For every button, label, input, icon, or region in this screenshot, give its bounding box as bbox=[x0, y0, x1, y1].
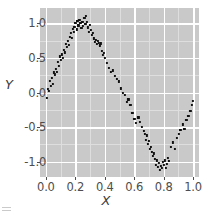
y-axis-tick-label: -0.5 bbox=[24, 120, 46, 134]
data-point bbox=[67, 44, 69, 46]
gridline-vertical bbox=[46, 8, 47, 177]
data-point bbox=[161, 167, 163, 169]
data-point bbox=[80, 27, 82, 29]
y-axis-tick-mark bbox=[37, 58, 40, 59]
data-point bbox=[172, 141, 174, 143]
data-point bbox=[166, 163, 168, 165]
data-point bbox=[159, 169, 161, 171]
gridline-horizontal bbox=[40, 23, 199, 24]
gridline-vertical bbox=[75, 8, 76, 177]
x-axis-title: X bbox=[0, 193, 212, 208]
data-point bbox=[82, 25, 84, 27]
data-point bbox=[77, 24, 79, 26]
plot-panel bbox=[40, 8, 199, 177]
data-point bbox=[129, 104, 131, 106]
data-point bbox=[131, 112, 133, 114]
data-point bbox=[173, 148, 175, 150]
data-point bbox=[181, 123, 183, 125]
data-point bbox=[70, 32, 72, 34]
cropped-glyph-artifact bbox=[2, 207, 11, 212]
data-point bbox=[120, 87, 122, 89]
data-point bbox=[185, 119, 187, 121]
data-point bbox=[61, 53, 63, 55]
data-point bbox=[139, 120, 141, 122]
x-axis-tick-label: 0.2 bbox=[66, 180, 84, 194]
scatter-plot-figure: -1.0-0.50.00.51.00.00.20.40.60.81.0 X Y bbox=[0, 0, 212, 218]
data-point bbox=[112, 69, 114, 71]
x-axis-tick-mark bbox=[164, 177, 165, 180]
x-axis-tick-mark bbox=[134, 177, 135, 180]
x-axis-tick-mark bbox=[75, 177, 76, 180]
data-point bbox=[78, 19, 80, 21]
y-axis-tick-mark bbox=[37, 23, 40, 24]
x-axis-tick-label: 1.0 bbox=[184, 180, 202, 194]
data-point bbox=[108, 67, 110, 69]
data-point bbox=[165, 167, 167, 169]
y-axis-tick-mark bbox=[37, 162, 40, 163]
data-point bbox=[127, 98, 129, 100]
data-point bbox=[123, 94, 125, 96]
data-point bbox=[56, 71, 58, 73]
y-axis-tick-label: -1.0 bbox=[24, 155, 46, 169]
x-axis-tick-label: 0.8 bbox=[155, 180, 173, 194]
x-axis-tick-mark bbox=[105, 177, 106, 180]
data-point bbox=[146, 134, 148, 136]
y-axis-title: Y bbox=[5, 77, 13, 92]
data-point bbox=[145, 139, 147, 141]
gridline-vertical bbox=[134, 8, 135, 177]
data-point bbox=[85, 15, 87, 17]
data-point bbox=[66, 46, 68, 48]
data-point bbox=[64, 51, 66, 53]
data-point bbox=[58, 65, 60, 67]
gridline-vertical bbox=[105, 8, 106, 177]
data-point bbox=[153, 152, 155, 154]
x-axis-tick-mark bbox=[46, 177, 47, 180]
gridline-horizontal bbox=[40, 127, 199, 128]
data-point bbox=[57, 61, 59, 63]
data-point bbox=[176, 137, 178, 139]
data-point bbox=[72, 30, 74, 32]
x-axis-tick-mark bbox=[193, 177, 194, 180]
x-axis-tick-label: 0.0 bbox=[37, 180, 55, 194]
gridline-horizontal bbox=[40, 162, 199, 163]
data-point bbox=[92, 32, 94, 34]
data-point bbox=[51, 77, 53, 79]
gridline-horizontal bbox=[40, 58, 199, 59]
data-point bbox=[99, 44, 101, 46]
x-axis-tick-label: 0.4 bbox=[96, 180, 114, 194]
data-point bbox=[137, 116, 139, 118]
y-axis-tick-mark bbox=[37, 127, 40, 128]
data-point bbox=[106, 62, 108, 64]
data-point bbox=[87, 26, 89, 28]
data-point bbox=[135, 122, 137, 124]
data-point bbox=[70, 37, 72, 39]
data-point bbox=[49, 80, 51, 82]
x-axis-tick-label: 0.6 bbox=[125, 180, 143, 194]
data-point bbox=[187, 115, 189, 117]
gridline-horizontal bbox=[40, 93, 199, 94]
data-point bbox=[179, 129, 181, 131]
data-point bbox=[183, 127, 185, 129]
data-point bbox=[125, 101, 127, 103]
gridline-vertical bbox=[193, 8, 194, 177]
gridline-vertical bbox=[164, 8, 165, 177]
data-point bbox=[167, 157, 169, 159]
data-point bbox=[170, 145, 172, 147]
y-axis-tick-mark bbox=[37, 93, 40, 94]
data-point bbox=[52, 83, 54, 85]
data-point bbox=[91, 34, 93, 36]
data-point bbox=[150, 145, 152, 147]
